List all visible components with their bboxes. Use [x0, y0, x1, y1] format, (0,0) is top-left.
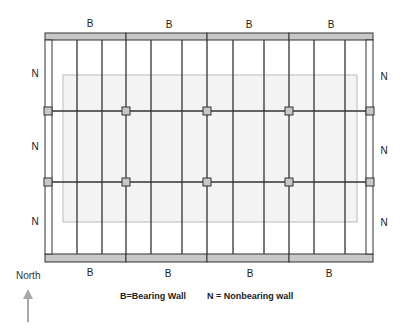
framing-diagram: B B B B B B B B N N N N N N B=Bearing Wa…: [0, 0, 407, 329]
post-icon: [203, 107, 211, 115]
right-wall-label: N: [380, 217, 387, 228]
post-icon: [203, 178, 211, 186]
post-icon: [366, 178, 374, 186]
legend-bearing: B=Bearing Wall: [120, 291, 186, 301]
bottom-wall-label: B: [247, 268, 254, 279]
post-icon: [285, 178, 293, 186]
bottom-bearing-beam: [45, 254, 373, 262]
post-icon: [122, 107, 130, 115]
top-wall-label: B: [246, 19, 253, 30]
top-wall-label: B: [328, 19, 335, 30]
right-nonbearing-wall: [366, 40, 373, 254]
top-wall-label: B: [87, 18, 94, 29]
bottom-wall-label: B: [326, 268, 333, 279]
bottom-wall-label: B: [87, 267, 94, 278]
right-wall-label: N: [380, 145, 387, 156]
post-icon: [285, 107, 293, 115]
north-label: North: [16, 270, 40, 281]
post-icon: [44, 178, 52, 186]
framing-plan-svg: [0, 0, 407, 329]
left-nonbearing-wall: [45, 40, 52, 254]
post-icon: [44, 107, 52, 115]
left-wall-label: N: [31, 141, 38, 152]
post-icon: [122, 178, 130, 186]
legend-nonbearing: N = Nonbearing wall: [207, 291, 293, 301]
top-wall-label: B: [166, 19, 173, 30]
overlay-region: [63, 75, 357, 222]
post-icon: [366, 107, 374, 115]
right-wall-label: N: [380, 71, 387, 82]
left-wall-label: N: [31, 68, 38, 79]
bottom-wall-label: B: [165, 268, 172, 279]
left-wall-label: N: [31, 216, 38, 227]
top-bearing-beam: [45, 33, 373, 40]
up-arrow-icon: [23, 289, 33, 322]
